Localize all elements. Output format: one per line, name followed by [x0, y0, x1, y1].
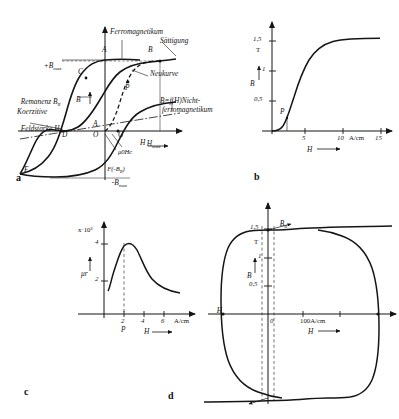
panel-a-minus-bmax-sub: max [119, 184, 127, 189]
panel-a-remanenz-text: Remanenz B [21, 97, 58, 106]
panel-b-xtick-label-5: 5 [302, 134, 305, 141]
panel-c-point-label-P: P [121, 326, 126, 334]
panel-a-f-text: F(-B [107, 165, 119, 172]
panel-c-x-unit: A/cm [174, 317, 189, 324]
panel-c-ytick-label-2: 2 [95, 275, 98, 282]
panel-b-y-label: B [250, 80, 255, 88]
panel-d-x-unit: 100A/cm [300, 317, 325, 324]
panel-d-br-sub: R [284, 225, 287, 230]
panel-d-graphics [204, 203, 396, 404]
panel-d-label-br: BR [276, 212, 287, 230]
panel-a-label-saettigung: Sättigung [160, 37, 188, 45]
panel-a-leader-neukurve [132, 70, 148, 76]
panel-d-hc-sub: c [222, 312, 224, 317]
panel-d-loop-upper [221, 226, 392, 398]
panel-d-ytick-label-1: 1 [258, 252, 261, 259]
panel-a-f-end: ) [123, 165, 125, 172]
panel-c-xtick-label-2: 2 [121, 317, 124, 324]
panel-a-label-nonferro-line2: ferromagnetikum [162, 106, 213, 114]
panel-b-xtick-label-15: 15 [375, 134, 382, 141]
panel-b-x-unit: A/cm [349, 134, 364, 141]
panel-letter-d: d [168, 390, 174, 401]
panel-c-x-label: H [144, 328, 149, 336]
panel-d-ytick-label-1p5: 1,5 [250, 223, 259, 230]
panel-d-y-unit: T [254, 238, 258, 245]
panel-letter-a: a [16, 172, 21, 183]
panel-d-xtick-label-0: 0 [270, 317, 273, 324]
panel-a-label-koerzitiv-line2: Feldstärke Hc [17, 117, 62, 135]
panel-a-minus-bmax-text: -B [112, 178, 119, 187]
panel-a-hmax-sub: max [152, 145, 160, 150]
panel-a-remanenz-sub: R [57, 103, 60, 108]
panel-c-xtick-label-6: 6 [161, 317, 164, 324]
panel-a-point-label-B2: B [76, 96, 81, 104]
panel-c-y-label: μr [81, 270, 88, 278]
panel-a-label-mu0hc: μ0Hc [118, 148, 132, 155]
panel-b-ytick-label-0p5: 0,5 [254, 95, 263, 102]
panel-a-point-label-B: B [148, 46, 153, 54]
panel-d-label-hc: Hc [213, 299, 224, 317]
panel-a-point-label-A2: A [93, 120, 98, 128]
panel-c-curve [108, 244, 180, 293]
panel-c-y-scale: x·10³ [78, 226, 93, 233]
panel-d-ytick-label-0p5: 0,5 [249, 280, 258, 287]
panel-b-point-label-P: P [280, 108, 285, 116]
panel-b-point-P [286, 117, 288, 119]
panel-a-leader-f [105, 134, 116, 150]
panel-a-point-label-C: C [78, 68, 83, 76]
panel-letter-b: b [254, 171, 260, 182]
panel-a-point-C [85, 77, 88, 80]
panel-a-koerzitiv-text: Feldstärke H [21, 124, 60, 133]
panel-a-label-plus-bmax: +Bmax [40, 54, 62, 72]
figure-magnetization-curves: Ferromagnetikum Sättigung Neukurve B=f(H… [0, 0, 399, 419]
panel-a-label-f-minus-br: F(-BR) [104, 158, 125, 175]
panel-letter-c: c [24, 386, 28, 397]
panel-a-point-B [158, 59, 161, 62]
panel-b-ytick-label-1: 1 [262, 65, 265, 72]
panel-d-x-label: H [308, 328, 313, 336]
panel-a-label-neukurve: Neukurve [150, 70, 178, 78]
panel-b-graphics [259, 22, 392, 149]
panel-c-ytick-label-4: 4 [95, 238, 98, 245]
panel-b-ytick-label-1p5: 1,5 [253, 35, 262, 42]
panel-b-y-unit: T [256, 46, 260, 53]
panel-a-point-label-A: A [102, 46, 107, 54]
panel-a-plus-bmax-sub: max [53, 67, 61, 72]
panel-b-xtick-label-10: 10 [337, 134, 344, 141]
panel-a-point-label-G: G [118, 131, 123, 139]
panel-d-loop-lower [204, 230, 379, 402]
panel-a-label-hmax: Hmax [143, 132, 160, 150]
panel-d-point-hc-right [376, 312, 379, 315]
panel-a-label-ferromagnetikum: Ferromagnetikum [110, 28, 163, 36]
panel-a-plus-bmax-text: +B [44, 61, 54, 70]
panel-a-label-koerzitiv-line1: Koerzitive [17, 108, 47, 116]
panel-a-label-h-axis: H [140, 139, 145, 147]
panel-a-point-label-P: P [125, 84, 130, 92]
panel-a-point-label-O: O [93, 131, 98, 139]
panel-b-curve [272, 38, 380, 131]
panel-b-x-label: H [307, 146, 312, 154]
panel-c-xtick-label-4: 4 [141, 317, 144, 324]
panel-d-y-label: B [247, 272, 252, 280]
panel-a-point-label-D: D [62, 131, 67, 139]
panel-a-label-remanenz: Remanenz BR [17, 90, 61, 108]
panel-a-point-label-E: E [24, 166, 29, 174]
